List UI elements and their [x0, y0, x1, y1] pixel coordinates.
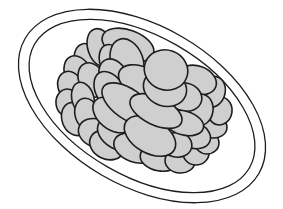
plate-illustration — [0, 0, 283, 209]
plate-of-cookies-drawing — [0, 0, 283, 209]
cookie-stack — [54, 22, 235, 175]
